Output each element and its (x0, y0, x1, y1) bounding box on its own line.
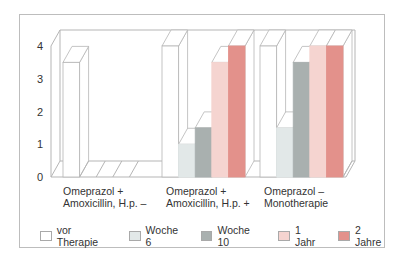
bar (326, 30, 352, 177)
bar (63, 46, 89, 177)
legend-swatch (278, 231, 290, 241)
legend-swatch (338, 231, 350, 241)
x-label-group-3: Omeprazol – Monotherapie (264, 185, 328, 209)
chart-bars (63, 30, 352, 177)
bar-chart-3d: 01234 (0, 0, 404, 261)
legend-swatch (201, 231, 213, 241)
x-label-group-1: Omeprazol + Amoxicillin, H.p. – (63, 185, 146, 209)
bar (228, 30, 254, 177)
legend-swatch (40, 231, 52, 241)
y-tick-label: 3 (37, 73, 43, 85)
y-tick-label: 0 (37, 171, 43, 183)
legend-item-woche-10: Woche 10 (201, 224, 264, 248)
y-tick-label: 1 (37, 138, 43, 150)
y-tick-label: 4 (37, 40, 43, 52)
legend-item-1-jahr: 1 Jahr (278, 224, 323, 248)
chart-legend: vor Therapie Woche 6 Woche 10 1 Jahr 2 J… (40, 224, 404, 248)
y-tick-label: 2 (37, 106, 43, 118)
legend-item-vor-therapie: vor Therapie (40, 224, 114, 248)
legend-item-2-jahre: 2 Jahre (338, 224, 389, 248)
legend-item-woche-6: Woche 6 (129, 224, 186, 248)
x-label-group-2: Omeprazol + Amoxicillin, H.p. + (166, 185, 250, 209)
legend-swatch (129, 231, 141, 241)
